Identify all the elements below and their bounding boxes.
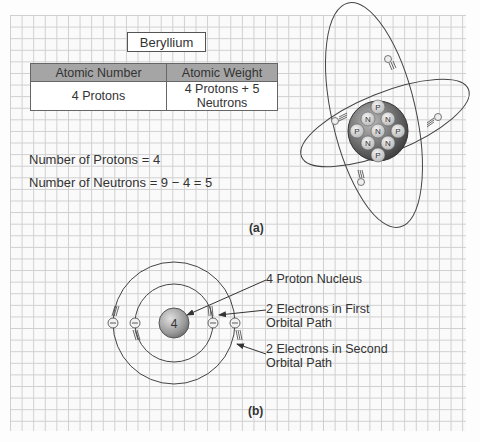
nucleus-label: 4 xyxy=(171,317,178,331)
callout-arrow-nucleus xyxy=(187,280,266,315)
callout-second-orbit-line1: 2 Electrons in Second xyxy=(266,342,388,356)
neutron-particle: N xyxy=(371,124,385,138)
electron-icon xyxy=(358,170,365,186)
neutron-particle: N xyxy=(381,136,395,150)
svg-text:N: N xyxy=(385,115,391,124)
beryllium-3d-atom: P N N P N P N N P xyxy=(290,0,479,237)
atom-illustrations: P N N P N P N N P 4 xyxy=(0,0,480,442)
callout-arrow-first-orbit xyxy=(219,310,266,315)
svg-text:N: N xyxy=(385,139,391,148)
callout-first-orbit-line2: Orbital Path xyxy=(266,316,370,330)
svg-text:P: P xyxy=(375,103,380,112)
electron-icon xyxy=(427,114,442,128)
proton-particle: P xyxy=(391,124,405,138)
callout-arrow-second-orbit xyxy=(237,344,266,354)
svg-text:P: P xyxy=(375,151,380,160)
electron-icon xyxy=(332,113,348,125)
electron-icon xyxy=(385,56,397,71)
neutron-particle: N xyxy=(361,112,375,126)
svg-text:N: N xyxy=(375,127,381,136)
electron-icon xyxy=(230,318,242,340)
callout-first-orbit-line1: 2 Electrons in First xyxy=(266,302,370,316)
svg-text:P: P xyxy=(395,127,400,136)
callout-second-orbit: 2 Electrons in Second Orbital Path xyxy=(266,342,388,370)
callout-first-orbit: 2 Electrons in First Orbital Path xyxy=(266,302,370,330)
proton-particle: P xyxy=(371,100,385,114)
proton-particle: P xyxy=(371,148,385,162)
callout-nucleus: 4 Proton Nucleus xyxy=(266,272,362,286)
figure-label-b: (b) xyxy=(248,404,263,418)
svg-text:N: N xyxy=(365,115,371,124)
beryllium-bohr-model: 4 xyxy=(108,262,266,384)
neutron-particle: N xyxy=(381,112,395,126)
neutron-particle: N xyxy=(361,136,375,150)
svg-text:P: P xyxy=(354,127,359,136)
callout-second-orbit-line2: Orbital Path xyxy=(266,356,388,370)
svg-text:N: N xyxy=(365,139,371,148)
proton-particle: P xyxy=(350,124,364,138)
